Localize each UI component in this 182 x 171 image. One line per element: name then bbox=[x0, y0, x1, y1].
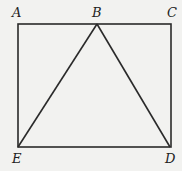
geometry-diagram: A B C D E bbox=[0, 0, 182, 171]
label-e: E bbox=[11, 151, 22, 166]
label-a: A bbox=[11, 5, 21, 20]
segment-bd bbox=[97, 24, 170, 147]
label-d: D bbox=[164, 151, 176, 166]
rectangle-acde bbox=[18, 24, 171, 147]
label-b: B bbox=[91, 5, 102, 20]
label-c: C bbox=[167, 5, 177, 20]
segment-eb bbox=[18, 24, 97, 147]
